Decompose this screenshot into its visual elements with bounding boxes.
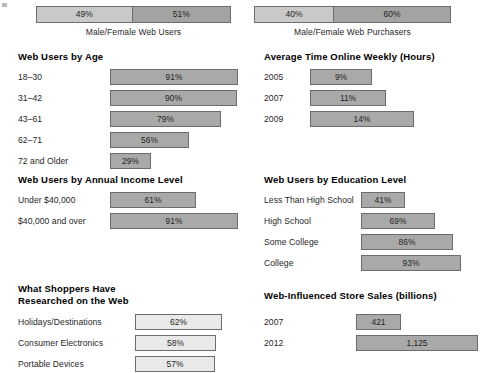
bar-row-label: 43–61 — [18, 114, 110, 124]
bar-row-label: 31–42 — [18, 93, 110, 103]
bar-row: High School 69% — [264, 213, 490, 229]
bar-rows: Under $40,000 61% $40,000 and over 91% — [18, 192, 243, 229]
bar-rows: 2007 421 2012 1,125 — [264, 314, 490, 351]
bar: 29% — [110, 153, 151, 169]
left-column: 49% 51% Male/Female Web Users Web Users … — [0, 0, 245, 373]
bar-value: 57% — [167, 360, 184, 368]
segment-female-value: 60% — [383, 10, 400, 19]
section-title: Web Users by Age — [18, 51, 243, 63]
bar-row-label: 2005 — [264, 72, 310, 82]
bar-row: Holidays/Destinations 62% — [18, 314, 243, 330]
section-title: Average Time Online Weekly (Hours) — [264, 51, 490, 63]
bar-value: 9% — [335, 73, 347, 81]
bar: 41% — [361, 192, 405, 208]
chart-caption: Male/Female Web Purchasers — [254, 27, 451, 37]
bar-row: 2009 14% — [264, 111, 490, 127]
chart-male-female-web-purchasers: 40% 60% Male/Female Web Purchasers — [254, 6, 451, 37]
bar-row-label: Less Than High School — [264, 195, 361, 205]
segment-female: 60% — [333, 7, 450, 22]
bar-row-label: Holidays/Destinations — [18, 317, 135, 327]
segment-male: 40% — [255, 7, 333, 22]
bar-rows: Less Than High School 41% High School 69… — [264, 192, 490, 271]
bar-rows: Holidays/Destinations 62% Consumer Elect… — [18, 314, 243, 372]
bar-row: 31–42 90% — [18, 90, 243, 106]
bar-row-label: High School — [264, 216, 361, 226]
bar-value: 11% — [340, 94, 356, 102]
bar-row: 2005 9% — [264, 69, 490, 85]
stacked-bar: 49% 51% — [36, 6, 231, 23]
chart-male-female-web-users: 49% 51% Male/Female Web Users — [36, 6, 231, 37]
section-what-shoppers-researched: What Shoppers Have Researched on the Web… — [18, 283, 243, 373]
bar: 421 — [356, 314, 401, 330]
bar-value: 1,125 — [407, 339, 428, 347]
segment-male-value: 40% — [285, 10, 302, 19]
bar-row: Portable Devices 57% — [18, 356, 243, 372]
bar-row-label: Some College — [264, 237, 361, 247]
bar-value: 90% — [165, 94, 182, 102]
bar-row-label: 72 and Older — [18, 156, 110, 166]
segment-female: 51% — [132, 7, 230, 22]
bar: 79% — [110, 111, 221, 127]
chart-caption: Male/Female Web Users — [36, 27, 231, 37]
bar: 56% — [110, 132, 189, 148]
bar-rows: 18–30 91% 31–42 90% 43–61 79% — [18, 69, 243, 169]
bar-row-label: 18–30 — [18, 72, 110, 82]
bar-row: Less Than High School 41% — [264, 192, 490, 208]
bar-row: 2007 421 — [264, 314, 490, 330]
bar-row: Under $40,000 61% — [18, 192, 243, 208]
bar-row-label: 2009 — [264, 114, 310, 124]
bar-value: 91% — [166, 217, 183, 225]
bar-row: 2007 11% — [264, 90, 490, 106]
bar-value: 421 — [372, 318, 386, 326]
bar-value: 93% — [403, 259, 420, 267]
bar-row: 62–71 56% — [18, 132, 243, 148]
bar-row: Consumer Electronics 58% — [18, 335, 243, 351]
bar: 9% — [310, 69, 372, 85]
stacked-bar: 40% 60% — [254, 6, 451, 23]
section-web-users-by-age: Web Users by Age 18–30 91% 31–42 90% 43–… — [18, 51, 243, 174]
bar-value: 56% — [141, 136, 158, 144]
bar: 58% — [135, 335, 216, 351]
segment-female-value: 51% — [173, 10, 190, 19]
bar: 93% — [361, 255, 461, 271]
bar-row-label: Consumer Electronics — [18, 338, 135, 348]
bar-row: 18–30 91% — [18, 69, 243, 85]
section-web-influenced-store-sales: Web-Influenced Store Sales (billions) 20… — [264, 290, 490, 356]
bar: 14% — [310, 111, 414, 127]
bar: 90% — [110, 90, 237, 106]
bar-value: 41% — [375, 196, 392, 204]
section-title: What Shoppers Have Researched on the Web — [18, 283, 243, 307]
bar-row: $40,000 and over 91% — [18, 213, 243, 229]
bar-row-label: 62–71 — [18, 135, 110, 145]
bar: 1,125 — [356, 335, 478, 351]
bar-value: 61% — [145, 196, 162, 204]
section-web-users-by-income: Web Users by Annual Income Level Under $… — [18, 174, 243, 234]
bar: 91% — [110, 213, 238, 229]
bar-value: 58% — [167, 339, 184, 347]
bar-value: 29% — [122, 157, 139, 165]
bar: 69% — [361, 213, 435, 229]
segment-male-value: 49% — [76, 10, 93, 19]
bar-row-label: 2007 — [264, 93, 310, 103]
bar-value: 69% — [390, 217, 407, 225]
bar: 62% — [135, 314, 222, 330]
bar-value: 91% — [166, 73, 183, 81]
bar-row-label: Under $40,000 — [18, 195, 110, 205]
bar-row: 43–61 79% — [18, 111, 243, 127]
bar: 57% — [135, 356, 215, 372]
bar-row: Some College 86% — [264, 234, 490, 250]
infographic-page: 49% 51% Male/Female Web Users Web Users … — [0, 0, 491, 373]
bar-row-label: College — [264, 258, 361, 268]
segment-male: 49% — [37, 7, 132, 22]
bar: 11% — [310, 90, 386, 106]
bar-row-label: Portable Devices — [18, 359, 135, 369]
bar-row-label: $40,000 and over — [18, 216, 110, 226]
bar-row: College 93% — [264, 255, 490, 271]
bar-rows: 2005 9% 2007 11% 2009 14% — [264, 69, 490, 127]
bar: 86% — [361, 234, 453, 250]
bar-value: 62% — [170, 318, 187, 326]
bar: 91% — [110, 69, 238, 85]
section-title: Web Users by Annual Income Level — [18, 174, 243, 186]
bar-value: 79% — [157, 115, 174, 123]
bar-value: 86% — [399, 238, 416, 246]
